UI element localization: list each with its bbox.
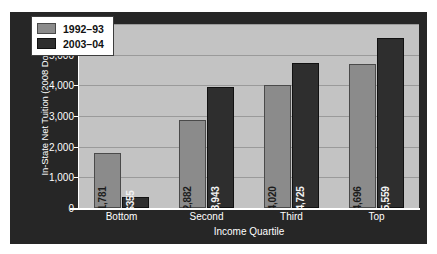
chart-figure: In-State Net Tuition (2008 Dollars) 01,0…	[10, 12, 427, 244]
legend-swatch	[37, 23, 56, 34]
bar-value-label: $4,725	[295, 186, 306, 208]
x-axis-title: Income Quartile	[79, 226, 419, 237]
y-axis-tick-label: 4,000	[30, 80, 74, 91]
legend-item[interactable]: 1992–93	[37, 21, 104, 36]
legend-label: 2003–04	[63, 38, 104, 50]
bar[interactable]: $4,696	[349, 64, 376, 208]
x-axis-tick-label: Third	[280, 211, 303, 222]
x-axis-tick-label: Second	[190, 211, 224, 222]
legend-label: 1992–93	[63, 23, 104, 35]
legend-swatch	[37, 38, 56, 49]
y-axis-tick-label: 2,000	[30, 141, 74, 152]
bar[interactable]: $3,943	[207, 87, 234, 208]
bar-value-label: $5,559	[380, 186, 391, 208]
chart-legend: 1992–932003–04	[31, 16, 114, 56]
y-axis-tick-label: 1,000	[30, 172, 74, 183]
plot-area: $1,781$355$2,882$3,943$4,020$4,725$4,696…	[79, 24, 419, 208]
bar[interactable]: $1,781	[94, 153, 121, 208]
bar[interactable]: $355	[122, 197, 149, 208]
bar-value-label: $4,696	[352, 186, 363, 208]
gridline	[79, 55, 419, 56]
bar[interactable]: $4,020	[264, 85, 291, 208]
x-axis-tick-labels: BottomSecondThirdTop	[79, 211, 419, 227]
y-axis-tick-label: 3,000	[30, 111, 74, 122]
x-axis-tick-label: Bottom	[106, 211, 138, 222]
bar-value-label: $1,781	[97, 186, 108, 208]
bar-value-label: $2,882	[182, 186, 193, 208]
bar-value-label: $3,943	[210, 186, 221, 208]
bar-value-label: $355	[125, 190, 136, 208]
y-axis-tick-label: 0	[30, 203, 74, 214]
bar[interactable]: $4,725	[292, 63, 319, 208]
gridline	[79, 24, 419, 25]
x-axis-tick-label: Top	[368, 211, 384, 222]
bar[interactable]: $5,559	[377, 38, 404, 208]
legend-item[interactable]: 2003–04	[37, 36, 104, 51]
bar-value-label: $4,020	[267, 186, 278, 208]
x-axis-line	[70, 208, 420, 210]
bar[interactable]: $2,882	[179, 120, 206, 208]
